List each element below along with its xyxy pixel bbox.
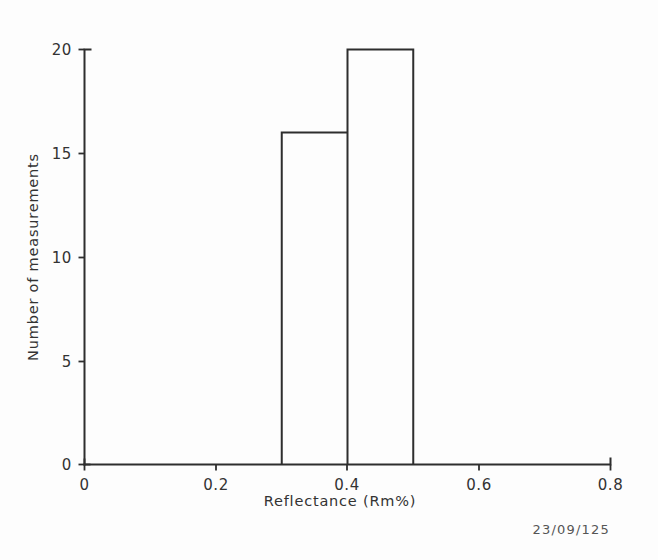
plot-canvas: 0 5 10 15 20 0 0.2 0.4 0.6 0.8 Reflectan… (0, 0, 658, 560)
y-tick-label-15: 15 (52, 145, 72, 163)
x-axis-title: Reflectance (Rm%) (264, 493, 417, 509)
histogram-outline (282, 50, 414, 465)
histogram-figure: 0 5 10 15 20 0 0.2 0.4 0.6 0.8 Reflectan… (0, 0, 658, 560)
y-tick-label-0: 0 (62, 456, 72, 474)
x-tick-labels: 0 0.2 0.4 0.6 0.8 (79, 476, 623, 494)
x-tick-label-0: 0 (79, 476, 89, 494)
x-tick-label-0p8: 0.8 (598, 476, 624, 494)
y-tick-label-5: 5 (62, 353, 72, 371)
y-axis-line (85, 50, 91, 465)
y-tick-label-20: 20 (52, 41, 72, 59)
x-tick-label-0p4: 0.4 (334, 476, 360, 494)
y-tick-label-10: 10 (52, 249, 72, 267)
x-tick-label-0p2: 0.2 (203, 476, 229, 494)
y-tick-labels: 0 5 10 15 20 (52, 41, 72, 474)
date-stamp: 23/09/125 (533, 522, 610, 537)
y-axis-title: Number of measurements (25, 153, 41, 361)
x-tick-label-0p6: 0.6 (466, 476, 492, 494)
